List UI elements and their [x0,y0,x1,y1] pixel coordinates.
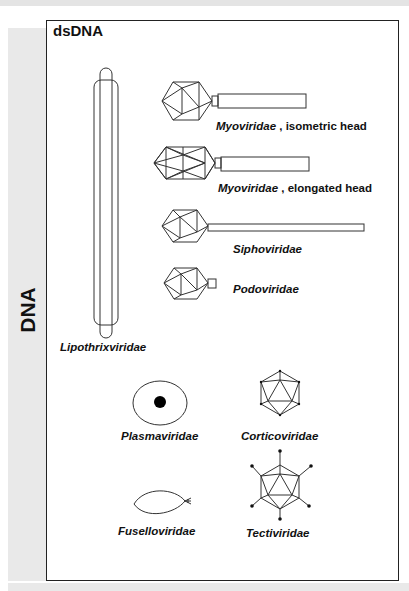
family-descriptor: , elongated head [278,182,372,194]
family-name: Podoviridae [233,283,299,295]
family-descriptor: , isometric head [276,120,367,132]
family-name: Plasmaviridae [121,430,198,442]
label-myoviridae-isometric: Myoviridae , isometric head [216,120,367,132]
label-tectiviridae: Tectiviridae [246,527,310,539]
myoviridae-isometric-icon [162,82,306,120]
tectiviridae-icon [252,451,311,519]
corticoviridae-icon [261,371,299,415]
family-name: Fuselloviridae [118,525,195,537]
label-myoviridae-elongated: Myoviridae , elongated head [218,182,372,194]
siphoviridae-icon [162,210,364,242]
label-lipothrixviridae: Lipothrixviridae [60,341,146,353]
label-podoviridae: Podoviridae [233,283,299,295]
family-name: Siphoviridae [233,243,302,255]
family-name: Lipothrixviridae [60,341,146,353]
family-name: Myoviridae [216,120,276,132]
fuselloviridae-icon [134,491,191,514]
myoviridae-elongated-icon [154,147,309,179]
virus-morphology-illustrations [0,0,409,591]
family-name: Corticoviridae [241,430,318,442]
label-siphoviridae: Siphoviridae [233,243,302,255]
family-name: Myoviridae [218,182,278,194]
label-fuselloviridae: Fuselloviridae [118,525,195,537]
lipothrixviridae-filament-icon [94,68,118,338]
family-name: Tectiviridae [246,527,310,539]
label-plasmaviridae: Plasmaviridae [121,430,198,442]
plasmaviridae-icon [133,381,187,425]
podoviridae-icon [164,268,216,299]
label-corticoviridae: Corticoviridae [241,430,318,442]
